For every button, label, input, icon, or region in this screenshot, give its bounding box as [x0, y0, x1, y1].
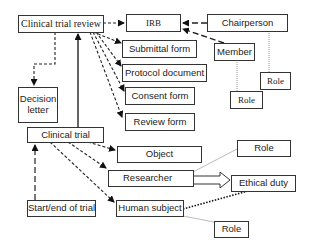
node-role-member: Role: [230, 91, 263, 109]
node-role-human-subject: Role: [214, 221, 249, 238]
node-researcher: Researcher: [108, 170, 194, 187]
node-decision-letter: Decision letter: [18, 87, 58, 123]
node-clinical-trial: Clinical trial: [27, 127, 104, 143]
edge-researcher-to-ethical: [193, 172, 230, 188]
node-role-chair: Role: [260, 72, 291, 90]
node-protocol-document: Protocol document: [122, 64, 207, 82]
node-start-end-of-trial: Start/end of trial: [27, 200, 96, 217]
node-object: Object: [117, 146, 202, 163]
node-ethical-duty: Ethical duty: [231, 175, 296, 192]
node-clinical-trial-review: Clinical trial review: [18, 15, 104, 33]
edge-review-to-consent: [93, 32, 124, 91]
node-submittal-form: Submittal form: [122, 40, 197, 58]
diagram-canvas: Clinical trial review IRB Chairperson Me…: [0, 0, 309, 248]
node-role-researcher: Role: [237, 140, 291, 157]
edge-review-to-decision: [34, 32, 55, 85]
edge-human-to-ethical: [183, 191, 248, 209]
node-human-subject: Human subject: [116, 200, 184, 217]
node-chairperson: Chairperson: [207, 14, 288, 32]
node-member: Member: [214, 43, 255, 61]
edge-trial-to-object: [88, 142, 115, 150]
node-review-form: Review form: [125, 113, 195, 131]
node-irb: IRB: [126, 14, 181, 32]
edge-human-to-role: [183, 216, 214, 222]
node-consent-form: Consent form: [125, 87, 195, 105]
